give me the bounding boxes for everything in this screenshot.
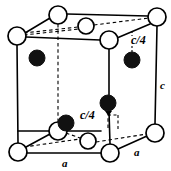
atom-filled-lower-left [58,115,74,131]
atom-open-top-back-right [148,8,166,26]
edge-bottom-back-horizontal-2 [96,134,147,142]
label-a-axis-right: a [134,147,140,158]
atom-open-top-front-left [8,27,26,45]
atom-open-top-front-right [100,31,118,49]
edge-top-back-horizontal-2 [94,18,149,25]
atom-filled-upper-right [124,52,140,68]
edge-bottom-back-horizontal [66,133,80,138]
atom-open-top-back-left [49,6,67,24]
label-a-axis-bottom: a [62,158,68,169]
edge-backleft-to-backright [67,14,148,16]
edge-top-front-horizontal [26,37,100,40]
crystal-structure-figure: c/4 c/4 c a a [0,0,171,171]
edge-front-right-vertical-lower [109,111,110,144]
atom-open-bottom-back-center [80,133,96,149]
atom-open-top-back-center [78,18,94,34]
atom-filled-center [100,95,116,111]
label-c-axis: c [160,80,165,91]
edge-front-left-vertical [17,45,18,143]
label-c-quarter-right: c/4 [131,34,146,46]
unit-cell-drawing [0,0,171,171]
atom-open-bottom-front-left [9,143,27,161]
atom-open-bottom-back-right [146,124,164,142]
atom-open-bottom-front-right [101,144,119,162]
atom-filled-upper-left [29,50,45,66]
label-c-quarter-center: c/4 [80,109,95,121]
edge-back-right-vertical [155,26,157,124]
